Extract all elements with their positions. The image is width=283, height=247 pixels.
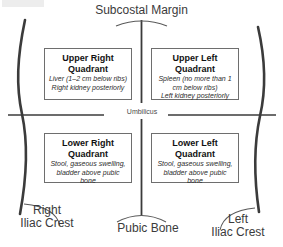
- quadrant-detail: Spleen (no more than 1 cm below ribs) Le…: [155, 75, 235, 101]
- left-flank-curve: [18, 20, 26, 214]
- quadrant-box-lower-left: Lower Left Quadrant Stool, gaseous swell…: [151, 133, 239, 183]
- label-umbilicus: Umbilicus: [106, 108, 178, 116]
- quadrant-detail: Liver (1–2 cm below ribs) Right kidney p…: [48, 75, 128, 92]
- right-flank-curve: [255, 27, 264, 212]
- quadrant-detail: Stool, gaseous swelling, bladder above p…: [48, 160, 128, 186]
- label-subcostal-margin: Subcostal Margin: [0, 4, 283, 17]
- abdominal-quadrants-diagram: Subcostal Margin Umbilicus Pubic Bone Ri…: [0, 0, 283, 247]
- quadrant-box-upper-left: Upper Left Quadrant Spleen (no more than…: [151, 48, 239, 100]
- label-right-iliac-crest: Right Iliac Crest: [4, 204, 90, 230]
- label-pubic-bone: Pubic Bone: [104, 222, 192, 235]
- label-left-iliac-crest: Left Iliac Crest: [196, 213, 280, 239]
- quadrant-title: Lower Right Quadrant: [48, 138, 128, 159]
- quadrant-box-lower-right: Lower Right Quadrant Stool, gaseous swel…: [44, 133, 132, 183]
- quadrant-box-upper-right: Upper Right Quadrant Liver (1–2 cm below…: [44, 48, 132, 100]
- quadrant-title: Lower Left Quadrant: [155, 138, 235, 159]
- quadrant-title: Upper Right Quadrant: [48, 53, 128, 74]
- quadrant-title: Upper Left Quadrant: [155, 53, 235, 74]
- quadrant-detail: Stool, gaseous swelling, bladder above p…: [155, 160, 235, 186]
